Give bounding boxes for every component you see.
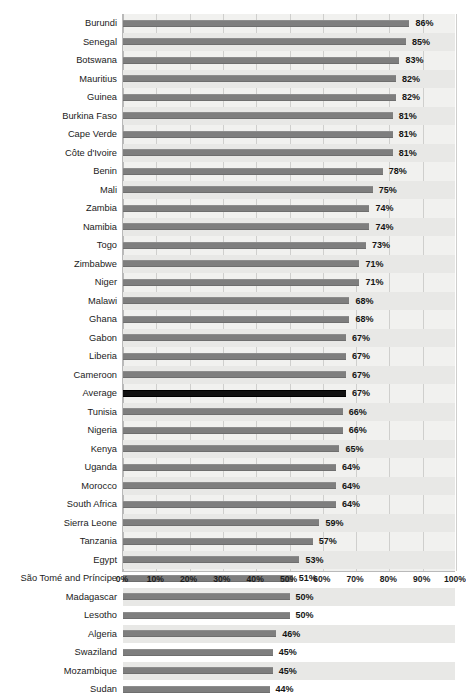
bar — [123, 242, 366, 249]
value-label: 83% — [405, 51, 423, 70]
bar-row: Malawi68% — [123, 292, 455, 311]
bar-row: Senegal85% — [123, 33, 455, 52]
value-label: 68% — [355, 310, 373, 329]
bar-row: Uganda64% — [123, 458, 455, 477]
gridline — [456, 14, 457, 571]
category-label: Guinea — [0, 88, 117, 107]
category-label: Botswana — [0, 51, 117, 70]
category-label: Cameroon — [0, 366, 117, 385]
bar — [123, 57, 399, 64]
bar-row: Niger71% — [123, 273, 455, 292]
x-axis: 0%10%20%30%40%50%60%70%80%90%100% — [122, 571, 455, 591]
category-label: Burkina Faso — [0, 107, 117, 126]
bar — [123, 667, 273, 674]
value-label: 74% — [375, 199, 393, 218]
value-label: 81% — [399, 107, 417, 126]
value-label: 67% — [352, 366, 370, 385]
bar — [123, 297, 349, 304]
x-tick-label: 50% — [280, 574, 297, 584]
value-label: 45% — [279, 662, 297, 681]
bar — [123, 260, 359, 267]
bar-row: Average67% — [123, 384, 455, 403]
value-label: 45% — [279, 643, 297, 662]
bar — [123, 612, 290, 619]
value-label: 46% — [282, 625, 300, 644]
category-label: Kenya — [0, 440, 117, 459]
bar-row: Mauritius82% — [123, 70, 455, 89]
bar-row: Zambia74% — [123, 199, 455, 218]
category-label: Cape Verde — [0, 125, 117, 144]
bar-row: Mozambique45% — [123, 662, 455, 681]
value-label: 64% — [342, 477, 360, 496]
value-label: 53% — [305, 551, 323, 570]
bar — [123, 223, 369, 230]
x-tick-label: 100% — [444, 574, 466, 584]
bar — [123, 464, 336, 471]
value-label: 78% — [389, 162, 407, 181]
value-label: 66% — [349, 421, 367, 440]
value-label: 67% — [352, 384, 370, 403]
bar — [123, 131, 393, 138]
value-label: 73% — [372, 236, 390, 255]
category-label: Tanzania — [0, 532, 117, 551]
category-label: Benin — [0, 162, 117, 181]
value-label: 71% — [365, 273, 383, 292]
bar-row: Tunisia66% — [123, 403, 455, 422]
bar-row: Mali75% — [123, 181, 455, 200]
x-tick-label: 0% — [116, 574, 128, 584]
bar — [123, 75, 396, 82]
value-label: 44% — [276, 680, 294, 697]
bar — [123, 686, 270, 693]
value-label: 75% — [379, 181, 397, 200]
category-label: Gabon — [0, 329, 117, 348]
bar-row: Lesotho50% — [123, 606, 455, 625]
value-label: 67% — [352, 347, 370, 366]
bar — [123, 519, 319, 526]
category-label: Madagascar — [0, 588, 117, 607]
category-label: Average — [0, 384, 117, 403]
value-label: 50% — [296, 606, 314, 625]
bar — [123, 445, 339, 452]
value-label: 85% — [412, 33, 430, 52]
bar-row: Egypt53% — [123, 551, 455, 570]
value-label: 64% — [342, 458, 360, 477]
category-label: Mali — [0, 181, 117, 200]
bar-row: Algeria46% — [123, 625, 455, 644]
x-tick-label: 10% — [147, 574, 164, 584]
category-label: Niger — [0, 273, 117, 292]
bar — [123, 279, 359, 286]
bar — [123, 482, 336, 489]
bar — [123, 593, 290, 600]
category-label: Swaziland — [0, 643, 117, 662]
category-label: Algeria — [0, 625, 117, 644]
value-label: 67% — [352, 329, 370, 348]
value-label: 64% — [342, 495, 360, 514]
bar-row: Burundi86% — [123, 14, 455, 33]
bar-row: Ghana68% — [123, 310, 455, 329]
value-label: 74% — [375, 218, 393, 237]
category-label: Côte d'Ivoire — [0, 144, 117, 163]
bar-row: Nigeria66% — [123, 421, 455, 440]
bar-row: Gabon67% — [123, 329, 455, 348]
bar — [123, 149, 393, 156]
bar-row: Guinea82% — [123, 88, 455, 107]
category-label: Mauritius — [0, 70, 117, 89]
bar-row: Côte d'Ivoire81% — [123, 144, 455, 163]
bar-row: Cameroon67% — [123, 366, 455, 385]
category-label: Malawi — [0, 292, 117, 311]
bar-row: Swaziland45% — [123, 643, 455, 662]
value-label: 71% — [365, 255, 383, 274]
bar — [123, 371, 346, 378]
x-tick-label: 30% — [213, 574, 230, 584]
category-label: Burundi — [0, 14, 117, 33]
bar — [123, 38, 406, 45]
bar — [123, 205, 369, 212]
bar-row: Zimbabwe71% — [123, 255, 455, 274]
value-label: 68% — [355, 292, 373, 311]
x-tick-label: 40% — [247, 574, 264, 584]
category-label: South Africa — [0, 495, 117, 514]
value-label: 59% — [325, 514, 343, 533]
value-label: 81% — [399, 125, 417, 144]
x-tick-label: 90% — [413, 574, 430, 584]
